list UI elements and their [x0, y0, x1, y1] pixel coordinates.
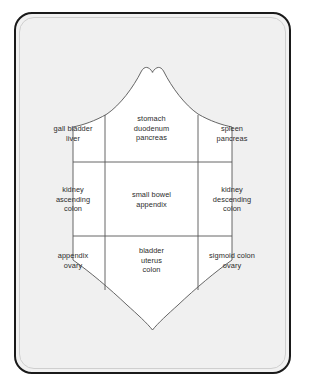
quadrant-label-line: gall bladder	[41, 124, 105, 134]
quadrant-label-line: descending	[198, 195, 266, 205]
quadrant-label-line: small bowel	[105, 190, 198, 200]
quadrant-label-line: spleen	[198, 124, 266, 134]
quadrant-label-line: appendix	[41, 251, 105, 261]
quadrant-label-left-flank-region: kidneydescendingcolon	[198, 185, 266, 214]
quadrant-label-left-upper-quadrant: spleenpancreas	[198, 124, 266, 143]
quadrant-label-line: ascending	[41, 195, 105, 205]
quadrant-label-line: stomach	[105, 114, 198, 124]
quadrant-label-line: kidney	[198, 185, 266, 195]
quadrant-label-line: colon	[105, 265, 198, 275]
quadrant-label-epigastric-region: stomachduodenumpancreas	[105, 114, 198, 143]
quadrant-label-suprapubic-region: bladderuteruscolon	[105, 246, 198, 275]
quadrant-label-line: ovary	[198, 261, 266, 271]
quadrant-label-umbilical-region: small bowelappendix	[105, 190, 198, 209]
quadrant-label-line: bladder	[105, 246, 198, 256]
quadrant-label-line: uterus	[105, 256, 198, 266]
quadrant-label-line: pancreas	[198, 134, 266, 144]
quadrant-label-right-lower-quadrant: appendixovary	[41, 251, 105, 270]
quadrant-label-line: colon	[41, 204, 105, 214]
quadrant-label-line: colon	[198, 204, 266, 214]
quadrant-label-line: appendix	[105, 200, 198, 210]
quadrant-label-line: kidney	[41, 185, 105, 195]
quadrant-label-line: sigmoid colon	[198, 251, 266, 261]
quadrant-label-line: pancreas	[105, 133, 198, 143]
quadrant-label-left-lower-quadrant: sigmoid colonovary	[198, 251, 266, 270]
quadrant-label-line: liver	[41, 134, 105, 144]
quadrant-label-right-flank-region: kidneyascendingcolon	[41, 185, 105, 214]
quadrant-label-right-upper-quadrant: gall bladderliver	[41, 124, 105, 143]
quadrant-label-line: duodenum	[105, 124, 198, 134]
quadrant-label-line: ovary	[41, 261, 105, 271]
